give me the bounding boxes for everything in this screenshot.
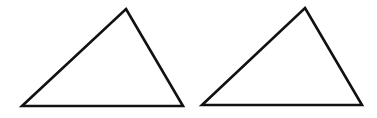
diagram-canvas <box>0 0 377 118</box>
left-triangle <box>22 9 183 106</box>
right-triangle <box>202 8 362 105</box>
